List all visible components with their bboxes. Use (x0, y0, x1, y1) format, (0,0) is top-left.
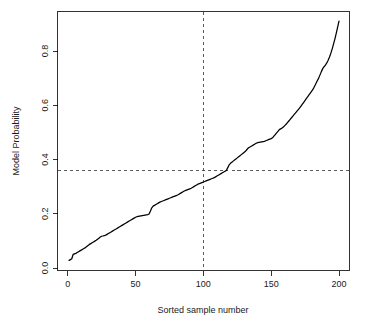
x-tick-label: 150 (264, 279, 279, 289)
x-axis-title: Sorted sample number (157, 305, 248, 315)
x-tick-label: 200 (331, 279, 346, 289)
chart-container: 050100150200 0.00.20.40.60.8 Sorted samp… (0, 0, 366, 330)
x-tick-label: 0 (65, 279, 70, 289)
x-axis-tick-labels: 050100150200 (65, 279, 346, 289)
y-axis-title: Model Probability (11, 106, 21, 176)
sorted-model-probability-curve (69, 21, 339, 260)
x-axis-tick-marks (68, 271, 339, 276)
y-axis-tick-marks (53, 51, 58, 268)
x-tick-label: 100 (196, 279, 211, 289)
y-tick-label: 0.4 (40, 153, 50, 166)
y-tick-label: 0.2 (40, 207, 50, 220)
y-tick-label: 0.0 (40, 262, 50, 275)
model-probability-line-chart: 050100150200 0.00.20.40.60.8 Sorted samp… (0, 0, 366, 330)
y-tick-label: 0.8 (40, 45, 50, 58)
x-tick-label: 50 (131, 279, 141, 289)
reference-lines-group (58, 12, 350, 271)
y-tick-label: 0.6 (40, 99, 50, 112)
y-axis-tick-labels: 0.00.20.40.60.8 (40, 45, 50, 275)
